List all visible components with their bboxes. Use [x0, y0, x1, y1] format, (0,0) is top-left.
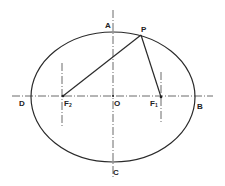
label-F1: F1: [150, 99, 158, 108]
radius-P-F1: [141, 35, 161, 97]
radius-P-F2: [63, 35, 141, 96]
label-A: A: [105, 21, 111, 30]
label-B: B: [197, 102, 203, 111]
label-D: D: [19, 99, 25, 108]
focus1-point: [160, 96, 163, 99]
label-C: C: [113, 168, 119, 177]
center-point: [112, 95, 114, 97]
ellipse-diagram: A P D O B C F2 F1: [0, 0, 225, 186]
focus2-point: [62, 95, 65, 98]
label-F2: F2: [64, 99, 72, 108]
label-O: O: [114, 99, 120, 108]
label-P: P: [141, 25, 147, 34]
